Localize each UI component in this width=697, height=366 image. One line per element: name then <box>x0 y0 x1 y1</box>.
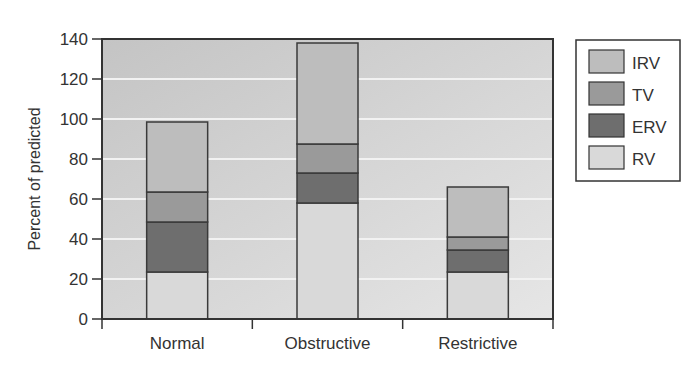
y-tick-label: 140 <box>60 30 88 49</box>
bar-segment-irv <box>447 187 508 237</box>
y-tick-label: 80 <box>69 150 88 169</box>
bar-segment-tv <box>447 237 508 250</box>
bar-segment-irv <box>147 122 208 192</box>
bar-segment-tv <box>297 144 358 173</box>
bar-segment-irv <box>297 43 358 144</box>
bar-segment-erv <box>147 222 208 272</box>
stacked-bar-chart: 020406080100120140 NormalObstructiveRest… <box>0 0 697 366</box>
bar-segment-rv <box>147 272 208 319</box>
bar-segment-rv <box>447 272 508 319</box>
y-axis-title: Percent of predicted <box>26 107 43 250</box>
y-tick-label: 0 <box>79 310 88 329</box>
legend-swatch-rv <box>589 146 624 169</box>
legend-label-rv: RV <box>632 150 656 169</box>
x-axis: NormalObstructiveRestrictive <box>102 319 553 353</box>
x-category-label: Obstructive <box>285 334 371 353</box>
legend-label-tv: TV <box>632 86 654 105</box>
bar-segment-rv <box>297 203 358 319</box>
y-axis: 020406080100120140 <box>60 30 102 329</box>
legend-swatch-tv <box>589 82 624 105</box>
legend-swatch-irv <box>589 50 624 73</box>
legend-label-erv: ERV <box>632 118 667 137</box>
x-category-label: Normal <box>150 334 205 353</box>
y-tick-label: 100 <box>60 110 88 129</box>
y-tick-label: 40 <box>69 230 88 249</box>
bar-segment-erv <box>447 250 508 272</box>
y-tick-label: 120 <box>60 70 88 89</box>
bar-segment-tv <box>147 192 208 222</box>
x-category-label: Restrictive <box>438 334 517 353</box>
legend: IRVTVERVRV <box>576 40 680 181</box>
y-tick-label: 60 <box>69 190 88 209</box>
bar-segment-erv <box>297 173 358 203</box>
y-tick-label: 20 <box>69 270 88 289</box>
legend-label-irv: IRV <box>632 54 661 73</box>
legend-swatch-erv <box>589 114 624 137</box>
